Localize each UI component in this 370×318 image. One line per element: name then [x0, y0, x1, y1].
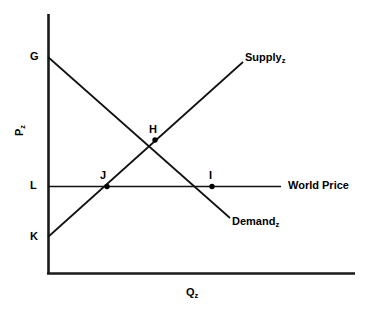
point-marker-j [104, 184, 109, 189]
supply-demand-chart: Pz Qz G L K H J I Supplyz Demandz World … [0, 0, 370, 318]
axis-label-l: L [30, 180, 37, 191]
demand-curve [48, 57, 230, 218]
world-price-label: World Price [288, 180, 349, 191]
y-axis-title: Pz [14, 125, 25, 136]
supply-curve-label-text: Supply [245, 51, 282, 63]
supply-curve-label-subscript: z [282, 56, 286, 65]
y-axis-title-text: P [13, 129, 25, 136]
demand-curve-label: Demandz [232, 216, 279, 227]
chart-canvas [0, 0, 370, 318]
demand-curve-label-subscript: z [275, 220, 279, 229]
supply-curve [48, 62, 243, 237]
x-axis-title-text: Q [186, 286, 195, 298]
point-label-i: I [209, 170, 212, 181]
x-axis-title-subscript: z [195, 291, 199, 300]
point-label-h: H [149, 124, 157, 135]
point-label-j: J [100, 170, 106, 181]
point-marker-h [152, 137, 157, 142]
axis-label-g: G [30, 51, 39, 62]
x-axis-title: Qz [186, 287, 198, 298]
axis-label-k: K [30, 231, 38, 242]
point-marker-i [209, 184, 214, 189]
y-axis-title-subscript: z [18, 125, 27, 129]
demand-curve-label-text: Demand [232, 215, 275, 227]
supply-curve-label: Supplyz [245, 52, 285, 63]
